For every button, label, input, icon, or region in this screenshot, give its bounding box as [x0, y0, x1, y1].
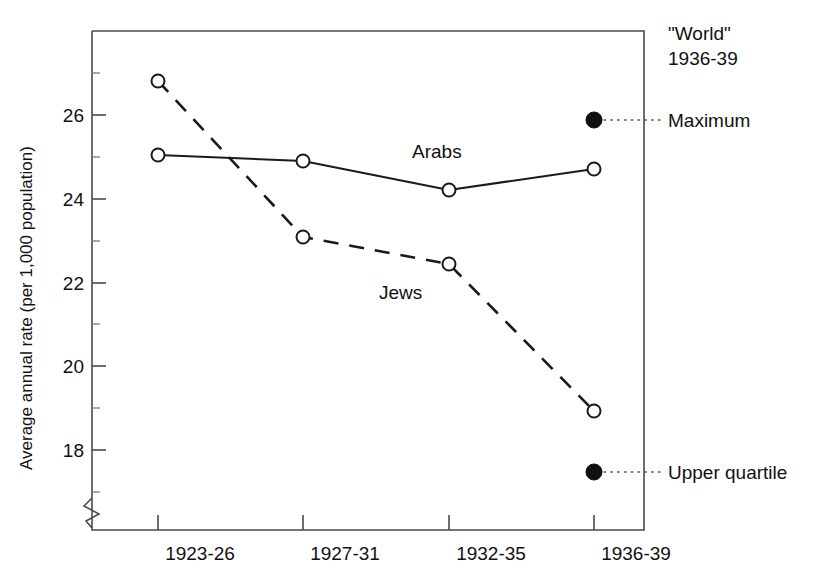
annotation-label-upper-quartile: Upper quartile: [668, 462, 787, 483]
y-tick-label-22: 22: [63, 273, 84, 294]
world-heading-line1: "World": [668, 23, 731, 44]
world-heading-line2: 1936-39: [668, 48, 738, 69]
y-tick-label-26: 26: [63, 105, 84, 126]
y-tick-label-24: 24: [63, 189, 85, 210]
series-markers-jews: [152, 75, 601, 418]
reference-marker-maximum: [586, 112, 602, 128]
y-axis-title: Average annual rate (per 1,000 populatio…: [17, 146, 36, 470]
x-tick-label-1936-39: 1936-39: [601, 543, 671, 564]
series-markers-arabs: [152, 149, 601, 197]
reference-marker-upper-quartile: [586, 464, 602, 480]
series-line-jews: [158, 81, 594, 411]
x-axis-ticks: [158, 515, 594, 530]
x-tick-label-1923-26: 1923-26: [165, 543, 235, 564]
plot-frame: [92, 31, 644, 530]
series-label-arabs: Arabs: [412, 141, 462, 162]
x-tick-label-1927-31: 1927-31: [310, 543, 380, 564]
line-chart: 26 24 22 20 18 1923-26 1927-31 1932-35 1…: [0, 0, 834, 587]
annotation-label-maximum: Maximum: [668, 110, 750, 131]
chart-figure: 26 24 22 20 18 1923-26 1927-31 1932-35 1…: [0, 0, 834, 587]
series-line-arabs: [158, 155, 594, 190]
series-label-jews: Jews: [379, 282, 422, 303]
y-tick-label-20: 20: [63, 356, 84, 377]
x-tick-label-1932-35: 1932-35: [456, 543, 526, 564]
y-tick-label-18: 18: [63, 440, 84, 461]
y-axis-major-ticks: [92, 115, 106, 450]
